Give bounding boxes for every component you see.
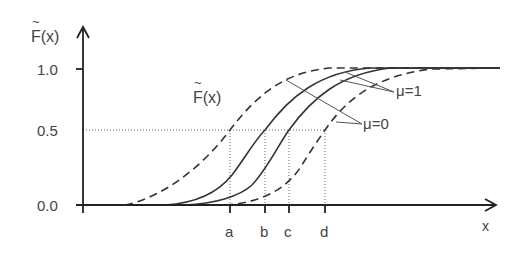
y-tick-0: 0.0: [37, 197, 58, 214]
mu1-label: μ=1: [396, 82, 422, 99]
y-axis-label: F(x): [31, 28, 59, 45]
y-tick-1: 1.0: [37, 61, 58, 78]
curve-inner-right-solid: [185, 68, 500, 205]
curve-outer-left-dashed: [125, 68, 500, 205]
x-tick-b: b: [260, 223, 268, 240]
curve-outer-right-dashed: [225, 68, 500, 205]
x-tick-a: a: [225, 223, 234, 240]
x-axis-label: x: [482, 218, 489, 234]
mu0-label: μ=0: [363, 115, 389, 132]
cdf-diagram: F(x) ~ 1.0 0.5 0.0 F(x) ~ μ=1 μ=0 a b c …: [0, 0, 527, 254]
axes: [76, 27, 496, 213]
y-axis-tilde: ~: [32, 14, 40, 29]
x-tick-d: d: [320, 223, 328, 240]
curve-label-tilde: ~: [194, 75, 202, 90]
x-tick-c: c: [284, 223, 292, 240]
guide-lines: [83, 130, 325, 205]
y-tick-05: 0.5: [37, 122, 58, 139]
curves: [125, 68, 500, 205]
curve-label: F(x): [193, 89, 221, 106]
